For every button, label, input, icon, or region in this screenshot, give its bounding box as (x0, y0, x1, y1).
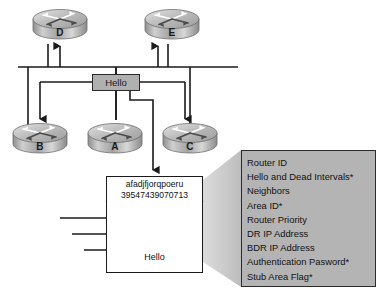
hello-field-item: Router ID (247, 156, 375, 170)
router-label-a: A (105, 141, 125, 152)
hello-packet-box-label: Hello (105, 77, 127, 88)
hello-packet-box: Hello (92, 74, 140, 91)
envelope-footer-label: Hello (106, 252, 203, 262)
hello-fields-panel: Router ID Hello and Dead Intervals* Neig… (241, 150, 376, 287)
envelope-address: afadjfjorqpoeru 39547439070713 (106, 178, 203, 201)
hello-field-item: Hello and Dead Intervals* (247, 170, 375, 184)
router-label-e: E (162, 27, 182, 38)
hello-field-item: DR IP Address (247, 227, 375, 241)
router-label-d: D (50, 27, 70, 38)
hello-field-item: Area ID* (247, 199, 375, 213)
hello-field-item: Authentication Pasword* (247, 255, 375, 269)
router-label-c: C (180, 141, 200, 152)
callout-cone (203, 150, 241, 287)
hello-field-item: Neighbors (247, 184, 375, 198)
hello-field-item: BDR IP Address (247, 241, 375, 255)
envelope-address-line-2: 39547439070713 (106, 190, 203, 201)
router-label-b: B (30, 141, 50, 152)
envelope-address-line-1: afadjfjorqpoeru (106, 179, 203, 190)
diagram-canvas: D E B A C Hello afadjfjorqpoeru 39547439… (0, 0, 378, 289)
hello-field-item: Router Priority (247, 213, 375, 227)
hello-field-item: Stub Area Flag* (247, 270, 375, 284)
